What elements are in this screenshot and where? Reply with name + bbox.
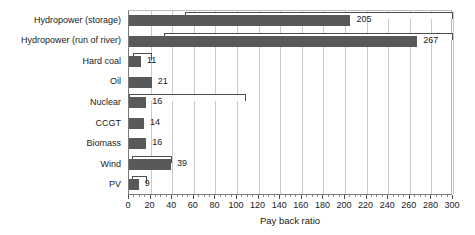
x-tick-label: 260 bbox=[401, 200, 416, 211]
bar-value-label: 11 bbox=[147, 55, 156, 66]
x-tick-label: 120 bbox=[250, 200, 265, 211]
bar bbox=[129, 118, 144, 129]
bar-row: 14 bbox=[129, 114, 451, 135]
x-axis-title: Pay back ratio bbox=[128, 215, 452, 226]
x-tick-minor bbox=[160, 195, 161, 197]
bar bbox=[129, 138, 146, 149]
x-tick-major bbox=[236, 195, 237, 199]
bar-row: 39 bbox=[129, 155, 451, 176]
x-tick-minor bbox=[187, 195, 188, 197]
category-label: Wind bbox=[100, 154, 121, 175]
x-tick-minor bbox=[403, 195, 404, 197]
x-tick-label: 240 bbox=[380, 200, 395, 211]
x-tick-minor bbox=[155, 195, 156, 197]
x-tick-minor bbox=[420, 195, 421, 197]
x-tick-major bbox=[279, 195, 280, 199]
x-tick-minor bbox=[425, 195, 426, 197]
category-label: Hydropower (run of river) bbox=[21, 31, 121, 52]
bar-row: 16 bbox=[129, 93, 451, 114]
category-label: Oil bbox=[110, 72, 121, 93]
x-tick-minor bbox=[268, 195, 269, 197]
x-tick-major bbox=[409, 195, 410, 199]
x-tick-label: 280 bbox=[423, 200, 438, 211]
x-tick-major bbox=[258, 195, 259, 199]
x-tick-label: 100 bbox=[228, 200, 243, 211]
x-tick-minor bbox=[317, 195, 318, 197]
x-tick-minor bbox=[220, 195, 221, 197]
bar bbox=[129, 159, 171, 170]
x-tick-label: 140 bbox=[272, 200, 287, 211]
x-tick-minor bbox=[139, 195, 140, 197]
x-tick-minor bbox=[295, 195, 296, 197]
plot-area: 2052671121161416399 bbox=[128, 10, 452, 195]
bar-row: 205 bbox=[129, 11, 451, 32]
x-tick-minor bbox=[355, 195, 356, 197]
x-tick-label: 80 bbox=[209, 200, 219, 211]
bar-row: 21 bbox=[129, 73, 451, 94]
x-tick-label: 200 bbox=[336, 200, 351, 211]
x-tick-minor bbox=[328, 195, 329, 197]
bar-chart: Hydropower (storage)Hydropower (run of r… bbox=[0, 0, 475, 235]
x-tick-minor bbox=[436, 195, 437, 197]
x-tick-major bbox=[366, 195, 367, 199]
x-tick-minor bbox=[393, 195, 394, 197]
x-tick-major bbox=[344, 195, 345, 199]
x-tick-minor bbox=[263, 195, 264, 197]
x-tick-minor bbox=[333, 195, 334, 197]
x-tick-minor bbox=[166, 195, 167, 197]
x-tick-minor bbox=[204, 195, 205, 197]
x-tick-label: 180 bbox=[315, 200, 330, 211]
x-tick-minor bbox=[274, 195, 275, 197]
x-tick-label: 220 bbox=[358, 200, 373, 211]
x-tick-minor bbox=[312, 195, 313, 197]
bar-value-label: 14 bbox=[150, 117, 160, 128]
bar bbox=[129, 179, 139, 190]
x-tick-minor bbox=[225, 195, 226, 197]
bar bbox=[129, 77, 152, 88]
bar-value-label: 205 bbox=[356, 14, 371, 25]
x-tick-minor bbox=[209, 195, 210, 197]
bar bbox=[129, 56, 141, 67]
category-axis-labels: Hydropower (storage)Hydropower (run of r… bbox=[0, 10, 125, 195]
x-tick-major bbox=[322, 195, 323, 199]
x-tick-label: 60 bbox=[188, 200, 198, 211]
bar-row: 267 bbox=[129, 32, 451, 53]
bar-value-label: 21 bbox=[158, 76, 168, 87]
bar-value-label: 9 bbox=[145, 178, 150, 189]
bar-value-label: 16 bbox=[152, 96, 162, 107]
x-tick-minor bbox=[247, 195, 248, 197]
category-label: CCGT bbox=[96, 113, 122, 134]
x-tick-minor bbox=[198, 195, 199, 197]
bar bbox=[129, 36, 417, 47]
x-tick-major bbox=[128, 195, 129, 199]
x-tick-minor bbox=[285, 195, 286, 197]
x-tick-minor bbox=[241, 195, 242, 197]
x-tick-minor bbox=[349, 195, 350, 197]
range-indicator bbox=[129, 94, 246, 101]
x-tick-label: 300 bbox=[444, 200, 459, 211]
x-tick-major bbox=[150, 195, 151, 199]
x-tick-label: 40 bbox=[166, 200, 176, 211]
x-tick-label: 0 bbox=[125, 200, 130, 211]
x-tick-minor bbox=[182, 195, 183, 197]
category-label: Hydropower (storage) bbox=[34, 10, 121, 31]
x-tick-minor bbox=[376, 195, 377, 197]
x-tick-major bbox=[430, 195, 431, 199]
x-tick-minor bbox=[360, 195, 361, 197]
bar-value-label: 39 bbox=[177, 158, 187, 169]
x-tick-minor bbox=[144, 195, 145, 197]
x-tick-minor bbox=[290, 195, 291, 197]
bar bbox=[129, 15, 350, 26]
x-tick-label: 20 bbox=[145, 200, 155, 211]
x-tick-minor bbox=[306, 195, 307, 197]
x-tick-minor bbox=[441, 195, 442, 197]
x-tick-major bbox=[387, 195, 388, 199]
bar-row: 9 bbox=[129, 175, 451, 196]
x-tick-major bbox=[452, 195, 453, 199]
x-tick-major bbox=[193, 195, 194, 199]
x-tick-minor bbox=[133, 195, 134, 197]
x-tick-minor bbox=[371, 195, 372, 197]
category-label: Hard coal bbox=[82, 51, 121, 72]
x-tick-major bbox=[171, 195, 172, 199]
x-tick-minor bbox=[414, 195, 415, 197]
